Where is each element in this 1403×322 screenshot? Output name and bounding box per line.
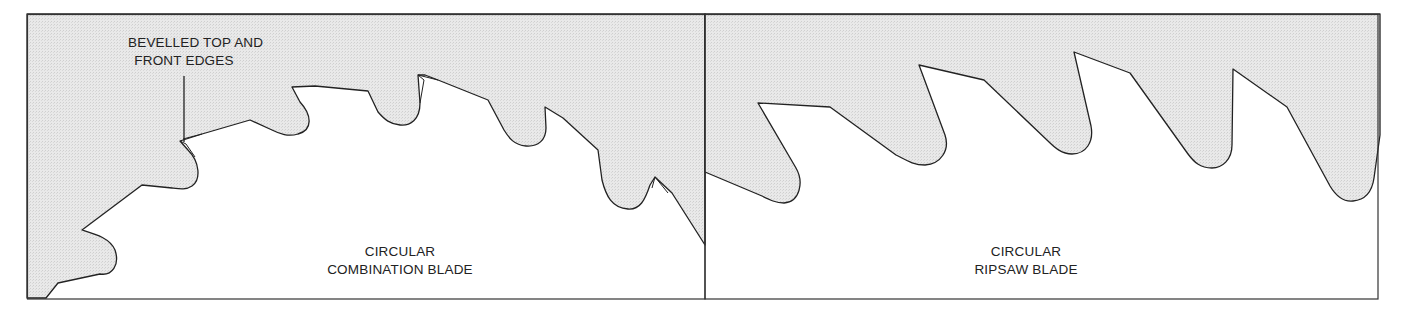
combination-caption-line-2: COMBINATION BLADE xyxy=(310,261,490,279)
bevel-detail-tooth-2 xyxy=(418,75,438,103)
bevel-callout-line-2: FRONT EDGES xyxy=(128,52,240,70)
combination-blade-caption: CIRCULAR COMBINATION BLADE xyxy=(310,243,490,279)
saw-blade-figure: BEVELLED TOP AND FRONT EDGES CIRCULAR CO… xyxy=(0,0,1403,322)
ripsaw-caption-line-1: CIRCULAR xyxy=(956,243,1096,261)
combination-caption-line-1: CIRCULAR xyxy=(310,243,490,261)
ripsaw-blade-caption: CIRCULAR RIPSAW BLADE xyxy=(956,243,1096,279)
ripsaw-caption-line-2: RIPSAW BLADE xyxy=(956,261,1096,279)
bevel-callout-label: BEVELLED TOP AND FRONT EDGES xyxy=(128,34,240,70)
bevel-callout-line-1: BEVELLED TOP AND xyxy=(128,34,240,52)
ripsaw-blade-shape xyxy=(705,14,1380,203)
